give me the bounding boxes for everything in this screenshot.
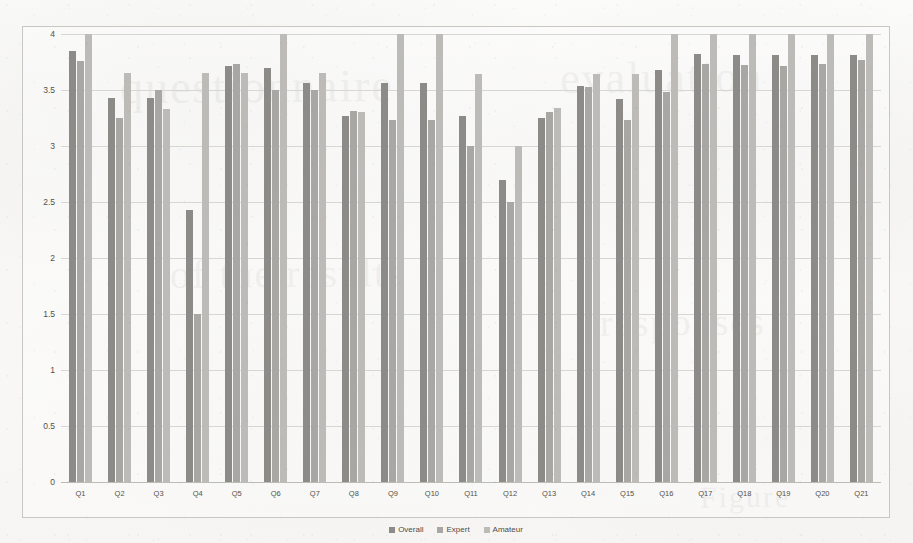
y-axis-tick-label: 1	[50, 365, 55, 375]
bar	[577, 86, 584, 482]
x-axis-tick-label-q19: Q19	[764, 489, 803, 498]
bar	[202, 73, 209, 482]
legend-item-overall[interactable]: Overall	[389, 525, 423, 534]
bar	[155, 90, 162, 482]
x-axis-tick-label-q20: Q20	[803, 489, 842, 498]
y-axis-tick-label: 2.5	[43, 197, 55, 207]
bar-group	[217, 34, 256, 482]
bar	[77, 61, 84, 482]
bar	[827, 34, 834, 482]
y-axis-tick-label: 4	[50, 29, 55, 39]
bar	[850, 55, 857, 482]
x-axis-tick-label-q2: Q2	[100, 489, 139, 498]
x-axis-tick-label-q18: Q18	[725, 489, 764, 498]
bar	[225, 66, 232, 482]
bars-layer	[61, 34, 881, 482]
bar	[671, 34, 678, 482]
bar	[108, 98, 115, 482]
bar-group	[803, 34, 842, 482]
bar	[749, 34, 756, 482]
bar-group	[61, 34, 100, 482]
y-axis-tick-label: 1.5	[43, 309, 55, 319]
x-axis-tick-label-q9: Q9	[373, 489, 412, 498]
chart-legend: OverallExpertAmateur	[23, 525, 889, 534]
bar-group	[256, 34, 295, 482]
x-axis-tick-label-q7: Q7	[295, 489, 334, 498]
bar-group	[569, 34, 608, 482]
legend-swatch-icon	[389, 527, 395, 533]
bar-group	[764, 34, 803, 482]
y-axis-tick-label: 2	[50, 253, 55, 263]
bar-group	[373, 34, 412, 482]
bar	[710, 34, 717, 482]
bar-group	[412, 34, 451, 482]
y-axis-tick-label: 3.5	[43, 85, 55, 95]
bar	[655, 70, 662, 482]
bar	[85, 34, 92, 482]
legend-item-expert[interactable]: Expert	[437, 525, 469, 534]
legend-swatch-icon	[437, 527, 443, 533]
chart-frame: 00.511.522.533.54 Q1Q2Q3Q4Q5Q6Q7Q8Q9Q10Q…	[22, 26, 890, 518]
bar	[624, 120, 631, 482]
bar-group	[491, 34, 530, 482]
bar	[420, 83, 427, 482]
y-axis-tick-label: 3	[50, 141, 55, 151]
bar	[163, 109, 170, 482]
x-axis-tick-labels: Q1Q2Q3Q4Q5Q6Q7Q8Q9Q10Q11Q12Q13Q14Q15Q16Q…	[61, 489, 881, 498]
bar	[264, 68, 271, 482]
bar	[241, 73, 248, 482]
x-axis-tick-label-q12: Q12	[491, 489, 530, 498]
x-axis-tick-label-q16: Q16	[647, 489, 686, 498]
bar-group	[608, 34, 647, 482]
bar	[272, 90, 279, 482]
bar-group	[530, 34, 569, 482]
bar-group	[725, 34, 764, 482]
x-axis-tick-label-q11: Q11	[451, 489, 490, 498]
bar-group	[686, 34, 725, 482]
bar	[311, 90, 318, 482]
bar	[428, 120, 435, 482]
legend-label: Expert	[446, 525, 469, 534]
bar	[811, 55, 818, 482]
bar	[515, 146, 522, 482]
x-axis-tick-label-q15: Q15	[608, 489, 647, 498]
x-axis-tick-label-q10: Q10	[412, 489, 451, 498]
bar	[303, 83, 310, 482]
bar-group	[100, 34, 139, 482]
bar	[694, 54, 701, 482]
y-axis-tick-label: 0.5	[43, 421, 55, 431]
plot-area: 00.511.522.533.54	[61, 34, 881, 489]
x-axis-tick-label-q8: Q8	[334, 489, 373, 498]
bar	[819, 64, 826, 482]
bar-group	[451, 34, 490, 482]
bar	[632, 74, 639, 482]
bar	[554, 108, 561, 482]
x-axis-tick-label-q13: Q13	[530, 489, 569, 498]
bar	[858, 60, 865, 482]
bar	[342, 116, 349, 482]
bar	[593, 74, 600, 482]
bar	[459, 116, 466, 482]
x-axis-tick-label-q17: Q17	[686, 489, 725, 498]
bar	[733, 55, 740, 482]
bar	[741, 65, 748, 482]
bar-group	[842, 34, 881, 482]
bar	[186, 210, 193, 482]
bar	[358, 112, 365, 482]
bar	[233, 64, 240, 482]
bar	[702, 64, 709, 482]
bar	[780, 66, 787, 482]
gridline: 0	[61, 482, 881, 483]
bar	[585, 87, 592, 482]
bar	[194, 314, 201, 482]
y-axis-tick-label: 0	[50, 477, 55, 487]
bar	[389, 120, 396, 482]
legend-item-amateur[interactable]: Amateur	[484, 525, 523, 534]
legend-swatch-icon	[484, 527, 490, 533]
bar	[467, 146, 474, 482]
legend-label: Overall	[398, 525, 423, 534]
bar	[663, 92, 670, 482]
bar	[350, 111, 357, 482]
bar	[280, 34, 287, 482]
bar	[69, 51, 76, 482]
